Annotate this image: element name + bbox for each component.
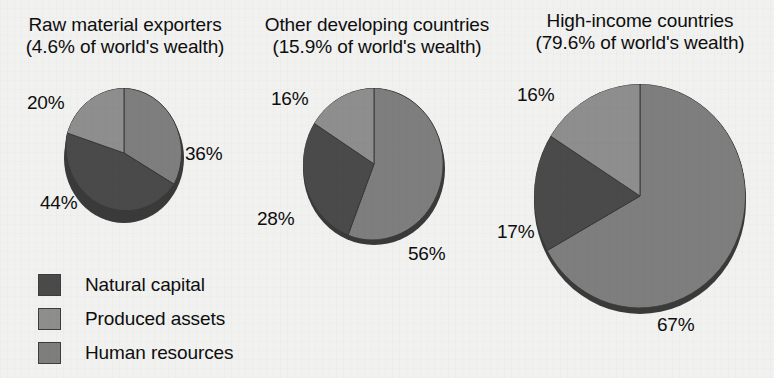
pie-disc (303, 88, 445, 240)
panel-title-high-income-countries: High-income countries (79.6% of world's … (506, 10, 774, 54)
slice-label-natural-capital: 44% (40, 192, 77, 214)
panel-raw-material-exporters: Raw material exporters (4.6% of world's … (0, 0, 250, 260)
pie-chart-figure: Raw material exporters (4.6% of world's … (0, 0, 774, 378)
slice-label-produced-assets: 20% (27, 92, 64, 114)
panel-other-developing-countries: Other developing countries (15.9% of wor… (248, 0, 506, 290)
pie-slices-svg (303, 88, 445, 240)
panel-title-line1: Raw material exporters (0, 14, 250, 36)
slice-label-natural-capital: 17% (497, 221, 534, 243)
legend-swatch-produced-assets (38, 308, 61, 330)
panel-title-line2: (79.6% of world's wealth) (506, 32, 774, 54)
pie-slices-svg (534, 84, 746, 308)
legend-swatch-human-resources (38, 342, 61, 364)
legend: Natural capital Produced assets Human re… (38, 268, 233, 370)
pie-high-income-countries (534, 84, 746, 308)
pie-disc (534, 84, 746, 308)
pie-other-developing-countries (303, 88, 445, 240)
slice-label-produced-assets: 16% (517, 84, 554, 106)
slice-label-natural-capital: 28% (257, 208, 294, 230)
panel-title-raw-material-exporters: Raw material exporters (4.6% of world's … (0, 14, 250, 58)
legend-item-human-resources: Human resources (38, 336, 233, 370)
legend-label-human-resources: Human resources (85, 342, 233, 364)
panel-high-income-countries: High-income countries (79.6% of world's … (494, 0, 774, 340)
slice-label-human-resources: 36% (185, 143, 222, 165)
panel-title-other-developing-countries: Other developing countries (15.9% of wor… (248, 14, 506, 58)
panel-title-line1: High-income countries (506, 10, 774, 32)
pie-disc (64, 88, 184, 218)
legend-item-produced-assets: Produced assets (38, 302, 233, 336)
slice-label-produced-assets: 16% (271, 88, 308, 110)
panel-title-line2: (15.9% of world's wealth) (248, 36, 506, 58)
legend-label-produced-assets: Produced assets (85, 308, 225, 330)
legend-label-natural-capital: Natural capital (85, 274, 205, 296)
panel-title-line1: Other developing countries (248, 14, 506, 36)
slice-label-human-resources: 56% (408, 243, 445, 265)
pie-raw-material-exporters (64, 88, 184, 218)
legend-item-natural-capital: Natural capital (38, 268, 233, 302)
panel-title-line2: (4.6% of world's wealth) (0, 36, 250, 58)
slice-label-human-resources: 67% (657, 314, 694, 336)
pie-slices-svg (64, 88, 184, 218)
legend-swatch-natural-capital (38, 274, 61, 296)
